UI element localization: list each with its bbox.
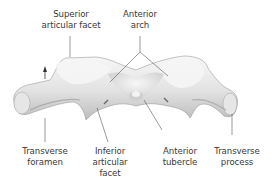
label-anterior-tubercle: Anterior tubercle bbox=[152, 146, 208, 168]
label-line: articular facet bbox=[36, 20, 106, 31]
label-line: arch bbox=[118, 20, 162, 31]
label-line: foramen bbox=[8, 157, 82, 168]
label-line: Transverse bbox=[206, 146, 268, 157]
label-line: Superior bbox=[36, 9, 106, 20]
arrow-up-icon bbox=[43, 66, 47, 79]
label-line: facet bbox=[82, 168, 138, 179]
label-line: Transverse bbox=[8, 146, 82, 157]
label-line: Inferior bbox=[82, 146, 138, 157]
label-anterior-arch: Anterior arch bbox=[118, 9, 162, 31]
label-transverse-process: Transverse process bbox=[206, 146, 268, 168]
label-line: articular bbox=[82, 157, 138, 168]
label-line: Anterior bbox=[152, 146, 208, 157]
label-line: process bbox=[206, 157, 268, 168]
label-line: tubercle bbox=[152, 157, 208, 168]
label-superior-articular-facet: Superior articular facet bbox=[36, 9, 106, 31]
label-inferior-articular-facet: Inferior articular facet bbox=[82, 146, 138, 179]
label-transverse-foramen: Transverse foramen bbox=[8, 146, 82, 168]
label-line: Anterior bbox=[118, 9, 162, 20]
